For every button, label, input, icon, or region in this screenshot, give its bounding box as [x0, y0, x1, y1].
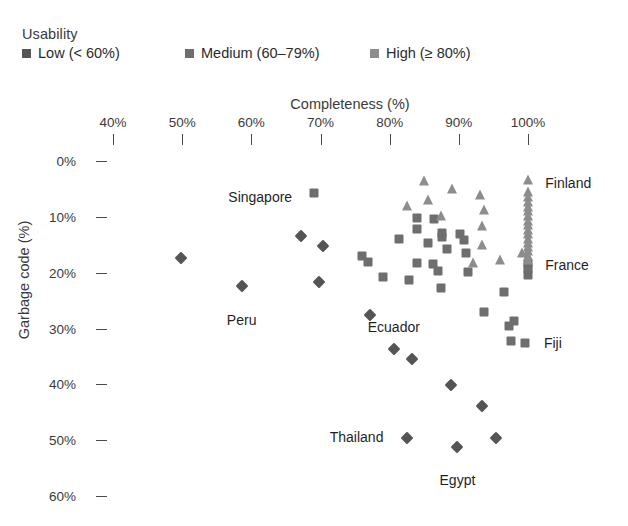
y-tick-label: 10% — [49, 209, 76, 224]
x-tick-mark — [113, 134, 114, 145]
y-tick-mark — [96, 273, 107, 274]
data-point[interactable] — [424, 238, 433, 247]
point-label: Thailand — [330, 429, 384, 445]
data-point[interactable] — [412, 225, 421, 234]
data-point[interactable] — [460, 235, 469, 244]
y-tick-label: 50% — [49, 433, 76, 448]
x-tick-mark — [251, 134, 252, 145]
data-point[interactable] — [316, 239, 329, 252]
x-tick-label: 60% — [238, 115, 265, 130]
point-label: Egypt — [440, 472, 476, 488]
data-point[interactable] — [235, 279, 248, 292]
data-point[interactable] — [524, 270, 533, 279]
point-label: France — [545, 257, 589, 273]
data-point[interactable] — [443, 245, 452, 254]
data-point[interactable] — [405, 352, 418, 365]
x-tick-label: 80% — [376, 115, 403, 130]
x-tick-mark — [459, 134, 460, 145]
data-point[interactable] — [507, 337, 516, 346]
data-point[interactable] — [387, 342, 400, 355]
data-point[interactable] — [463, 268, 472, 277]
data-point[interactable] — [444, 379, 457, 392]
point-label: Fiji — [544, 335, 562, 351]
data-point[interactable] — [499, 287, 508, 296]
data-point[interactable] — [520, 339, 529, 348]
data-point[interactable] — [175, 252, 188, 265]
data-point[interactable] — [423, 195, 433, 205]
x-tick-label: 50% — [169, 115, 196, 130]
x-tick-label: 100% — [511, 115, 546, 130]
x-tick-label: 40% — [99, 115, 126, 130]
data-point[interactable] — [451, 441, 464, 454]
y-tick-mark — [96, 440, 107, 441]
y-tick-label: 60% — [49, 489, 76, 504]
data-point[interactable] — [438, 233, 447, 242]
x-tick-label: 70% — [307, 115, 334, 130]
data-point[interactable] — [413, 213, 422, 222]
chart-root: Usability Low (< 60%)Medium (60–79%)High… — [0, 0, 628, 526]
y-tick-mark — [96, 217, 107, 218]
data-point[interactable] — [479, 307, 488, 316]
data-point[interactable] — [468, 258, 478, 268]
data-point[interactable] — [510, 316, 519, 325]
data-point[interactable] — [461, 249, 470, 258]
point-label: Ecuador — [368, 319, 420, 335]
data-point[interactable] — [495, 255, 505, 265]
data-point[interactable] — [419, 175, 429, 185]
data-point[interactable] — [477, 221, 487, 231]
data-point[interactable] — [436, 283, 445, 292]
data-point[interactable] — [517, 247, 527, 257]
point-label: Peru — [227, 312, 257, 328]
data-point[interactable] — [295, 230, 308, 243]
data-point[interactable] — [378, 272, 387, 281]
data-point[interactable] — [364, 258, 373, 267]
x-tick-mark — [182, 134, 183, 145]
y-tick-label: 40% — [49, 377, 76, 392]
data-point[interactable] — [447, 183, 457, 193]
data-point[interactable] — [402, 200, 412, 210]
data-point[interactable] — [394, 234, 403, 243]
y-tick-mark — [96, 384, 107, 385]
y-tick-mark — [96, 161, 107, 162]
y-tick-label: 30% — [49, 321, 76, 336]
plot-area: 40%50%60%70%80%90%100%0%10%20%30%40%50%6… — [0, 0, 628, 526]
x-tick-mark — [390, 134, 391, 145]
data-point[interactable] — [309, 188, 318, 197]
data-point[interactable] — [490, 432, 503, 445]
point-label: Finland — [545, 175, 591, 191]
x-tick-mark — [321, 134, 322, 145]
data-point[interactable] — [477, 239, 487, 249]
data-point[interactable] — [476, 399, 489, 412]
data-point[interactable] — [436, 210, 446, 220]
data-point[interactable] — [523, 174, 533, 184]
data-point[interactable] — [413, 258, 422, 267]
x-tick-label: 90% — [445, 115, 472, 130]
y-tick-mark — [96, 496, 107, 497]
y-tick-label: 20% — [49, 265, 76, 280]
y-tick-label: 0% — [56, 154, 76, 169]
data-point[interactable] — [479, 204, 489, 214]
data-point[interactable] — [313, 275, 326, 288]
y-tick-mark — [96, 329, 107, 330]
data-point[interactable] — [434, 266, 443, 275]
data-point[interactable] — [475, 189, 485, 199]
data-point[interactable] — [401, 432, 414, 445]
point-label: Singapore — [228, 189, 292, 205]
data-point[interactable] — [405, 276, 414, 285]
x-tick-mark — [528, 134, 529, 145]
